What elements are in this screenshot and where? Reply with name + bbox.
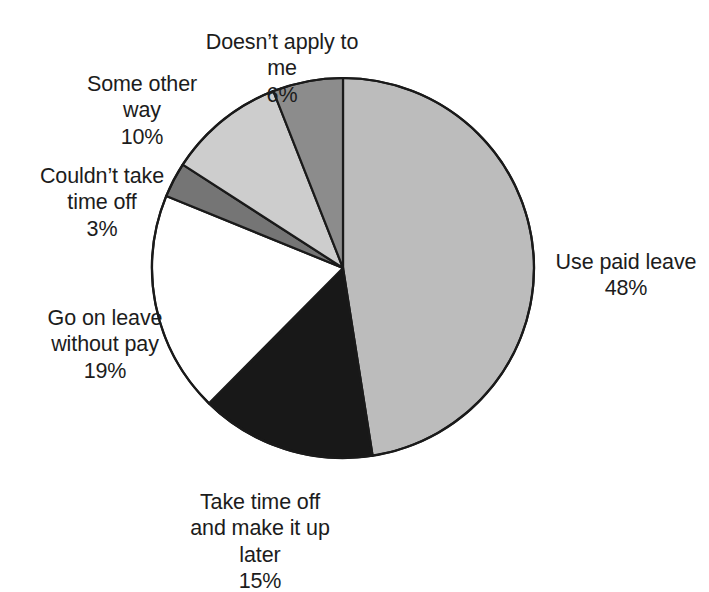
pie-label-text-some-other-way: Some other way <box>87 72 197 123</box>
pie-label-text-couldnt-take-time-off: Couldn’t take time off <box>40 164 164 215</box>
pie-value-go-on-leave-without-pay: 19% <box>2 358 208 385</box>
pie-value-couldnt-take-time-off: 3% <box>2 216 202 243</box>
pie-label-text-take-time-off-and-make-it-up-later: Take time off and make it up later <box>190 490 330 567</box>
pie-label-text-use-paid-leave: Use paid leave <box>556 250 697 274</box>
pie-label-text-go-on-leave-without-pay: Go on leave without pay <box>48 306 163 357</box>
pie-label-take-time-off-and-make-it-up-later: Take time off and make it up later 15% <box>142 462 378 592</box>
pie-label-go-on-leave-without-pay: Go on leave without pay 19% <box>2 278 208 411</box>
pie-label-use-paid-leave: Use paid leave 48% <box>542 222 709 328</box>
pie-slice-use-paid-leave <box>343 78 534 456</box>
pie-value-use-paid-leave: 48% <box>542 275 709 302</box>
pie-label-couldnt-take-time-off: Couldn’t take time off 3% <box>2 136 202 269</box>
pie-value-take-time-off-and-make-it-up-later: 15% <box>142 568 378 592</box>
